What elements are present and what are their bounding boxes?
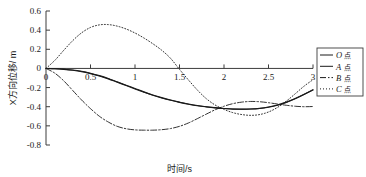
legend-label-cjk-c: 点	[344, 86, 351, 94]
x-axis-tick-label: 2	[222, 72, 227, 82]
y-axis-tick-label: -0.2	[27, 83, 41, 93]
legend-label-cjk-a: 点	[344, 64, 351, 72]
y-axis-title: X方向位移/ m	[7, 51, 18, 106]
legend-label-cjk-b: 点	[344, 75, 351, 83]
x-axis-tick-label: 2.5	[263, 72, 275, 82]
y-axis-tick-label: 0	[37, 63, 42, 73]
y-axis-tick-label: 0.6	[30, 6, 42, 16]
legend-label-a: A	[335, 62, 342, 72]
chart-background	[0, 0, 366, 177]
x-axis-title: 时间/s	[167, 163, 193, 174]
legend-label-b: B	[336, 73, 341, 83]
x-axis-tick-label: 1	[133, 72, 138, 82]
y-axis-tick-label: -0.8	[27, 140, 42, 150]
legend-label-c: C	[336, 84, 342, 94]
y-axis-tick-label: 0.4	[30, 25, 42, 35]
legend-label-cjk-o: 点	[344, 52, 351, 60]
x-axis-tick-label: 0	[44, 72, 49, 82]
legend-label-o: O	[336, 50, 342, 60]
chart-legend: O点A点B点C点	[317, 48, 363, 96]
y-axis-tick-label: -0.4	[27, 102, 42, 112]
displacement-line-chart: 0.60.40.20-0.2-0.4-0.6-0.800.511.522.53X…	[0, 0, 366, 177]
y-axis-tick-label: -0.6	[27, 121, 42, 131]
y-axis-tick-label: 0.2	[30, 44, 41, 54]
chart-figure: 0.60.40.20-0.2-0.4-0.6-0.800.511.522.53X…	[0, 0, 366, 177]
